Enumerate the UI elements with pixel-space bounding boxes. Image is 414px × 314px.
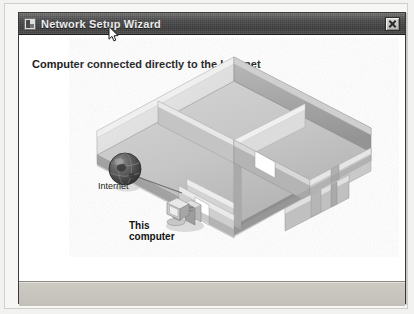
screenshot-page: Network Setup Wizard Computer connected … [0, 0, 414, 314]
wizard-icon [24, 18, 36, 30]
wall-center-front [234, 163, 241, 230]
close-icon[interactable] [385, 17, 400, 31]
window-title: Network Setup Wizard [41, 18, 385, 30]
this-computer-label-line2: computer [129, 231, 175, 242]
internet-label: Internet [98, 181, 129, 191]
window-titlebar[interactable]: Network Setup Wizard [19, 13, 405, 35]
network-diagram-illustration [19, 36, 405, 281]
scan-frame: Network Setup Wizard Computer connected … [4, 3, 408, 309]
wizard-button-panel [19, 281, 405, 306]
network-setup-wizard-window: Network Setup Wizard Computer connected … [18, 12, 406, 304]
this-computer-label-line1: This [129, 220, 150, 231]
this-computer-label: This computer [129, 220, 187, 242]
wizard-client-area: Computer connected directly to the Inter… [19, 35, 405, 281]
